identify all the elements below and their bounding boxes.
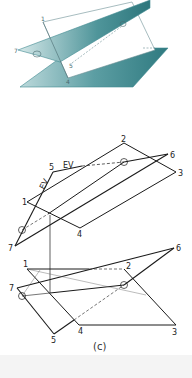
point-label: 6 — [176, 244, 181, 253]
point-label: 5 — [49, 163, 54, 172]
front-view-labels: 1 2 3 4 5 6 7 (c) — [9, 244, 181, 352]
point-label: 3 — [172, 328, 177, 337]
point-label: 6 — [170, 151, 175, 160]
point-label: 1 — [41, 15, 45, 22]
descriptive-geometry-figure: 1 4 5 7 1 2 3 4 5 6 7 EV EV — [0, 0, 192, 378]
pictorial-view: 1 4 5 7 — [14, 0, 168, 87]
point-label: 2 — [126, 262, 131, 271]
bottom-margin — [0, 355, 192, 378]
point-label: 5 — [51, 336, 56, 345]
plane-1-2-3-4 — [27, 143, 176, 228]
front-view — [17, 248, 176, 334]
point-label: 4 — [78, 327, 83, 336]
point-label: 1 — [23, 260, 28, 269]
point-label: 7 — [9, 284, 14, 293]
point-label: 2 — [121, 135, 126, 144]
point-label: 7 — [14, 47, 18, 54]
point-label: 5 — [69, 62, 73, 69]
edge-view-label: EV — [63, 161, 74, 170]
top-view — [15, 143, 176, 293]
point-label: 7 — [8, 244, 13, 253]
point-label: 1 — [22, 198, 27, 207]
point-label: 3 — [178, 169, 183, 178]
top-view-labels: 1 2 3 4 5 6 7 EV EV — [8, 135, 183, 253]
point-label: 4 — [77, 230, 82, 239]
point-label: 4 — [66, 78, 70, 85]
figure-caption: (c) — [93, 341, 106, 352]
